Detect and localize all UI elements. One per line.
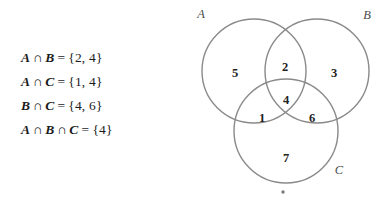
equation-row: A∩B∩C={4} [21,118,181,142]
set-label-a: A [196,7,205,21]
equation-left-set: A [21,50,30,65]
circle-a [202,19,306,123]
region-value-a-and-b: 2 [282,60,288,74]
set-equations-list: A∩B={2, 4} A∩C={1, 4} B∩C={4, 6} A∩B∩C={… [21,46,181,142]
equation-mid-set: C [45,74,54,89]
region-value-b-only: 3 [331,66,337,80]
region-value-b-and-c: 6 [309,111,315,125]
region-value-a-and-c: 1 [259,111,265,125]
set-label-b: B [363,8,371,22]
equation-mid-set: B [45,122,54,137]
equation-result-set: {2, 4} [68,50,102,65]
equation-mid-set: B [45,50,54,65]
dot-marker-icon [281,190,284,193]
equation-result-set: {4} [92,122,112,137]
equation-row: A∩C={1, 4} [21,70,181,94]
equation-left-set: B [21,98,30,113]
set-label-c: C [335,163,344,177]
equals-sign: = [54,74,68,89]
equation-result-set: {1, 4} [68,74,102,89]
intersection-operator-icon: ∩ [30,98,45,113]
equation-row: A∩B={2, 4} [21,46,181,70]
equation-left-set: A [21,122,30,137]
venn-diagram-figure: A∩B={2, 4} A∩C={1, 4} B∩C={4, 6} A∩B∩C={… [0,0,388,201]
circle-b [265,19,369,123]
equation-right-set: C [69,122,78,137]
venn-diagram: A B C 5 2 3 1 4 6 7 [190,0,388,201]
equation-row: B∩C={4, 6} [21,94,181,118]
region-value-a-only: 5 [232,66,238,80]
intersection-operator-icon: ∩ [54,122,69,137]
region-value-a-b-and-c: 4 [283,93,290,107]
equation-left-set: A [21,74,30,89]
equation-result-set: {4, 6} [68,98,102,113]
equals-sign: = [54,98,68,113]
intersection-operator-icon: ∩ [30,50,45,65]
intersection-operator-icon: ∩ [30,74,45,89]
equals-sign: = [54,50,68,65]
intersection-operator-icon: ∩ [30,122,45,137]
equals-sign: = [79,122,93,137]
region-value-c-only: 7 [283,151,289,165]
equation-mid-set: C [45,98,54,113]
